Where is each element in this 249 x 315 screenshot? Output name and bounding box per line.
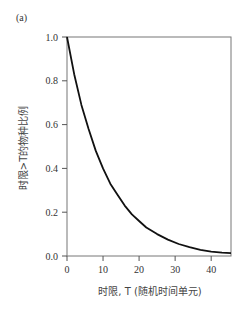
- y-tick-label: 0.4: [46, 163, 59, 174]
- y-tick-label: 1.0: [46, 32, 59, 43]
- x-axis-label: 时限, T (随机时间单元): [98, 283, 201, 298]
- x-tick-label: 20: [134, 264, 144, 275]
- plot-frame: [67, 37, 231, 256]
- survival-chart: 0.00.20.40.60.81.0010203040: [0, 0, 249, 315]
- y-tick-label: 0.0: [46, 251, 59, 262]
- survival-curve: [67, 37, 231, 253]
- y-tick-label: 0.8: [46, 75, 59, 86]
- y-axis-label: 时限>T的物种比例: [15, 106, 30, 191]
- x-tick-label: 30: [170, 264, 180, 275]
- y-tick-label: 0.2: [46, 207, 59, 218]
- x-tick-label: 40: [206, 264, 216, 275]
- x-tick-label: 10: [98, 264, 108, 275]
- y-tick-label: 0.6: [46, 119, 59, 130]
- x-tick-label: 0: [65, 264, 70, 275]
